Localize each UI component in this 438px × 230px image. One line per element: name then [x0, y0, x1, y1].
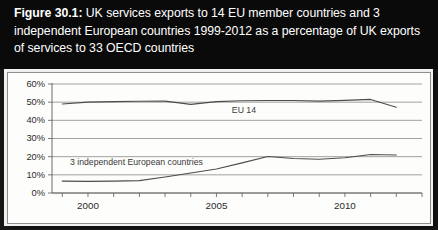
- y-tick-label: 0%: [32, 188, 45, 198]
- x-tick-label: 2005: [206, 200, 228, 211]
- page-edge-bottom: [0, 226, 438, 230]
- chart-frame: 0%10%20%30%40%50%60% 200020052010 EU 143…: [7, 72, 431, 224]
- y-tick-label: 60%: [26, 79, 45, 89]
- series-labels: EU 143 independent European countries: [70, 105, 256, 167]
- x-axis-labels: 200020052010: [77, 200, 356, 211]
- series-label: EU 14: [232, 105, 256, 115]
- y-tick-label: 10%: [26, 170, 45, 180]
- y-tick-label: 20%: [26, 152, 45, 162]
- y-axis-ticks: [48, 84, 52, 193]
- y-axis-labels: 0%10%20%30%40%50%60%: [26, 79, 45, 198]
- figure-title-band: Figure 30.1: UK services exports to 14 E…: [0, 0, 438, 69]
- y-tick-label: 40%: [26, 115, 45, 125]
- figure-title: Figure 30.1: UK services exports to 14 E…: [14, 5, 424, 58]
- y-tick-label: 30%: [26, 133, 45, 143]
- x-tick-label: 2000: [77, 200, 99, 211]
- x-tick-label: 2010: [334, 200, 356, 211]
- line-chart: 0%10%20%30%40%50%60% 200020052010 EU 143…: [8, 73, 431, 224]
- page-edge-left: [0, 69, 4, 230]
- series-label: 3 independent European countries: [70, 157, 203, 167]
- figure-page: Figure 30.1: UK services exports to 14 E…: [0, 0, 438, 230]
- data-series: [62, 99, 396, 181]
- y-tick-label: 50%: [26, 97, 45, 107]
- figure-number: Figure 30.1:: [14, 6, 82, 20]
- x-axis-ticks: [62, 193, 422, 197]
- series-line: [62, 99, 396, 107]
- page-edge-right: [433, 69, 438, 230]
